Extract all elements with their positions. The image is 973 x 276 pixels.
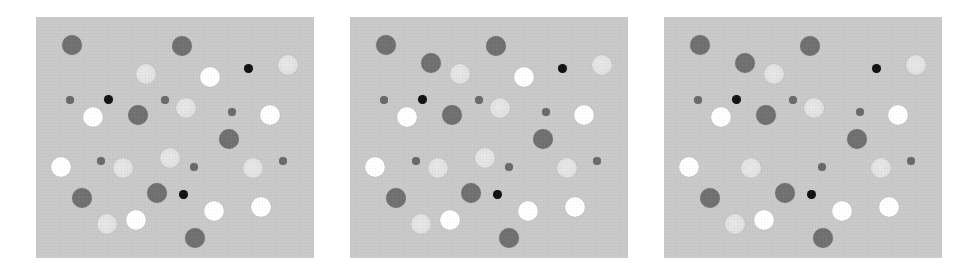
small-dark-gray-circle [694, 96, 702, 104]
dark-gray-circle [128, 105, 148, 125]
white-circle [514, 67, 534, 87]
dark-gray-circle [499, 228, 519, 248]
light-circle [725, 214, 745, 234]
black-circle [179, 190, 188, 199]
small-dark-gray-circle [505, 163, 513, 171]
dark-gray-circle [756, 105, 776, 125]
white-circle [518, 201, 538, 221]
small-dark-gray-circle [593, 157, 601, 165]
white-circle [397, 107, 417, 127]
panel-3 [664, 17, 942, 258]
small-dark-gray-circle [412, 157, 420, 165]
black-circle [418, 95, 427, 104]
black-circle [732, 95, 741, 104]
light-circle [176, 98, 196, 118]
dark-gray-circle [185, 228, 205, 248]
small-dark-gray-circle [542, 108, 550, 116]
light-circle [450, 64, 470, 84]
light-circle [557, 158, 577, 178]
dark-gray-circle [735, 53, 755, 73]
black-circle [807, 190, 816, 199]
light-circle [411, 214, 431, 234]
light-circle [136, 64, 156, 84]
dark-gray-circle [172, 36, 192, 56]
light-circle [741, 158, 761, 178]
white-circle [365, 157, 385, 177]
white-circle [83, 107, 103, 127]
dark-gray-circle [800, 36, 820, 56]
white-circle [879, 197, 899, 217]
white-circle [679, 157, 699, 177]
black-circle [872, 64, 881, 73]
dark-gray-circle [72, 188, 92, 208]
dark-gray-circle [147, 183, 167, 203]
small-dark-gray-circle [856, 108, 864, 116]
dark-gray-circle [847, 129, 867, 149]
small-dark-gray-circle [818, 163, 826, 171]
white-circle [754, 210, 774, 230]
white-circle [204, 201, 224, 221]
small-dark-gray-circle [279, 157, 287, 165]
white-circle [565, 197, 585, 217]
black-circle [493, 190, 502, 199]
small-dark-gray-circle [789, 96, 797, 104]
dark-gray-circle [461, 183, 481, 203]
light-circle [592, 55, 612, 75]
white-circle [440, 210, 460, 230]
white-circle [260, 105, 280, 125]
panel-2 [350, 17, 628, 258]
light-circle [278, 55, 298, 75]
small-dark-gray-circle [190, 163, 198, 171]
dark-gray-circle [386, 188, 406, 208]
white-circle [51, 157, 71, 177]
light-circle [871, 158, 891, 178]
small-dark-gray-circle [907, 157, 915, 165]
white-circle [888, 105, 908, 125]
dark-gray-circle [775, 183, 795, 203]
dark-gray-circle [533, 129, 553, 149]
white-circle [711, 107, 731, 127]
white-circle [574, 105, 594, 125]
dark-gray-circle [219, 129, 239, 149]
light-circle [113, 158, 133, 178]
panel-1 [36, 17, 314, 258]
black-circle [244, 64, 253, 73]
small-dark-gray-circle [475, 96, 483, 104]
small-dark-gray-circle [228, 108, 236, 116]
dark-gray-circle [813, 228, 833, 248]
light-circle [764, 64, 784, 84]
dark-gray-circle [486, 36, 506, 56]
light-circle [97, 214, 117, 234]
small-dark-gray-circle [380, 96, 388, 104]
light-circle [428, 158, 448, 178]
white-circle [126, 210, 146, 230]
light-circle [475, 148, 495, 168]
dark-gray-circle [700, 188, 720, 208]
black-circle [558, 64, 567, 73]
light-circle [160, 148, 180, 168]
small-dark-gray-circle [66, 96, 74, 104]
light-circle [243, 158, 263, 178]
dark-gray-circle [690, 35, 710, 55]
light-circle [906, 55, 926, 75]
white-circle [832, 201, 852, 221]
white-circle [200, 67, 220, 87]
small-dark-gray-circle [97, 157, 105, 165]
black-circle [104, 95, 113, 104]
small-dark-gray-circle [161, 96, 169, 104]
light-circle [804, 98, 824, 118]
dark-gray-circle [421, 53, 441, 73]
light-circle [490, 98, 510, 118]
dark-gray-circle [376, 35, 396, 55]
dark-gray-circle [62, 35, 82, 55]
white-circle [251, 197, 271, 217]
dark-gray-circle [442, 105, 462, 125]
